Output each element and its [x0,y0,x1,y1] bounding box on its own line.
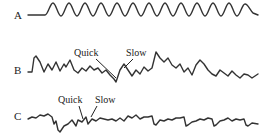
trace-b-slow-arrow [124,59,133,68]
trace-c-wave [28,114,258,132]
trace-c-quick-arrow [79,106,83,119]
trace-b-slow-label: Slow [126,47,147,58]
trace-a-wave [28,3,258,16]
trace-b-label: B [14,64,21,76]
trace-c-quick-label: Quick [58,94,82,105]
trace-b-quick-label: Quick [74,47,98,58]
trace-a-label: A [14,9,22,21]
waveform-diagram: A B Quick Slow C Quick Slow [0,0,280,139]
trace-c-label: C [14,110,21,122]
trace-c-slow-label: Slow [95,94,116,105]
trace-c-slow-arrow [91,106,97,117]
